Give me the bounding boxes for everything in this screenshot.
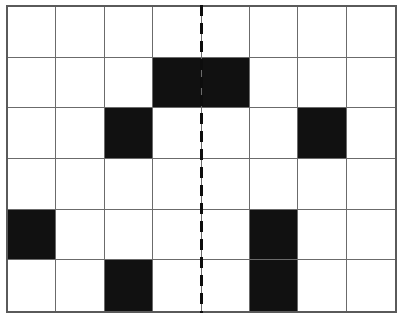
grid-cell-empty[interactable] xyxy=(202,210,250,261)
grid-cell-empty[interactable] xyxy=(250,58,298,109)
grid-cell-filled[interactable] xyxy=(8,210,56,261)
grid-cell-empty[interactable] xyxy=(56,58,104,109)
grid-cell-empty[interactable] xyxy=(153,210,201,261)
grid-cell-empty[interactable] xyxy=(8,108,56,159)
grid-cell-empty[interactable] xyxy=(298,260,346,311)
grid-cell-empty[interactable] xyxy=(105,58,153,109)
grid-cell-empty[interactable] xyxy=(153,260,201,311)
grid-cell-empty[interactable] xyxy=(298,58,346,109)
grid-cell-empty[interactable] xyxy=(56,108,104,159)
grid-cell-empty[interactable] xyxy=(347,210,395,261)
grid-table xyxy=(8,7,395,311)
grid-cell-filled[interactable] xyxy=(202,58,250,109)
grid-cell-empty[interactable] xyxy=(347,7,395,58)
grid-cell-empty[interactable] xyxy=(153,159,201,210)
grid-cell-empty[interactable] xyxy=(153,7,201,58)
grid-cell-empty[interactable] xyxy=(202,108,250,159)
grid-cell-empty[interactable] xyxy=(56,159,104,210)
grid-cell-empty[interactable] xyxy=(347,260,395,311)
grid-cell-empty[interactable] xyxy=(202,7,250,58)
grid-cell-empty[interactable] xyxy=(105,210,153,261)
grid-cell-filled[interactable] xyxy=(105,260,153,311)
grid-cell-empty[interactable] xyxy=(56,7,104,58)
grid-cell-empty[interactable] xyxy=(202,260,250,311)
grid-cell-empty[interactable] xyxy=(298,210,346,261)
grid-cell-empty[interactable] xyxy=(8,7,56,58)
grid-cell-empty[interactable] xyxy=(8,58,56,109)
grid-cell-empty[interactable] xyxy=(202,159,250,210)
grid-cell-empty[interactable] xyxy=(250,108,298,159)
grid-cell-empty[interactable] xyxy=(347,108,395,159)
grid-cell-empty[interactable] xyxy=(105,7,153,58)
grid-cell-filled[interactable] xyxy=(153,58,201,109)
grid-cell-empty[interactable] xyxy=(347,159,395,210)
grid-cell-empty[interactable] xyxy=(298,7,346,58)
grid-cell-empty[interactable] xyxy=(56,210,104,261)
grid-frame xyxy=(6,5,397,313)
grid-cell-empty[interactable] xyxy=(298,159,346,210)
figure-canvas xyxy=(0,0,403,318)
grid-cell-filled[interactable] xyxy=(250,210,298,261)
grid-cell-empty[interactable] xyxy=(153,108,201,159)
grid-cell-filled[interactable] xyxy=(298,108,346,159)
grid-cell-empty[interactable] xyxy=(250,159,298,210)
grid-cell-empty[interactable] xyxy=(8,159,56,210)
grid-cell-empty[interactable] xyxy=(105,159,153,210)
grid-cell-filled[interactable] xyxy=(250,260,298,311)
grid-cell-empty[interactable] xyxy=(8,260,56,311)
grid-cell-filled[interactable] xyxy=(105,108,153,159)
grid-cell-empty[interactable] xyxy=(56,260,104,311)
grid-cell-empty[interactable] xyxy=(250,7,298,58)
grid-cell-empty[interactable] xyxy=(347,58,395,109)
